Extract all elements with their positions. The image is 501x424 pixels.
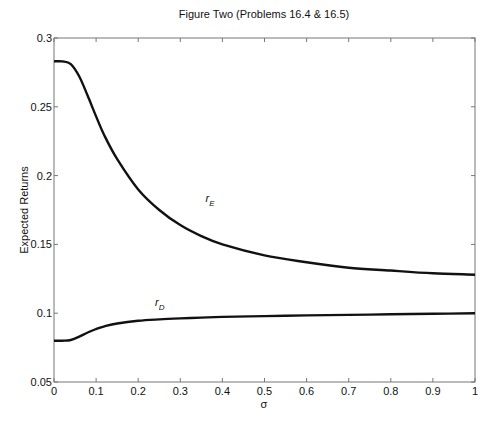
series-line-r-d <box>54 313 475 341</box>
x-tick-label: 0.7 <box>341 385 356 397</box>
curve-labels: rErD <box>155 192 215 313</box>
x-tick-label: 0.3 <box>173 385 188 397</box>
y-axis-ticks: 0.050.10.150.20.250.3 <box>31 32 475 388</box>
x-tick-label: 0.9 <box>425 385 440 397</box>
y-tick-label: 0.05 <box>31 376 52 388</box>
curve-label: rE <box>206 192 216 208</box>
x-tick-label: 0.2 <box>131 385 146 397</box>
x-tick-label: 0.5 <box>257 385 272 397</box>
x-tick-label: 0.8 <box>383 385 398 397</box>
x-tick-label: 0.6 <box>299 385 314 397</box>
plot-area <box>54 38 475 382</box>
y-tick-label: 0.25 <box>31 101 52 113</box>
series-lines <box>54 61 475 341</box>
y-axis-label: Expected Returns <box>18 166 30 254</box>
series-line-r-e <box>54 61 475 275</box>
y-tick-label: 0.15 <box>31 238 52 250</box>
y-tick-label: 0.3 <box>37 32 52 44</box>
y-tick-label: 0.2 <box>37 170 52 182</box>
curve-label: rD <box>155 296 165 312</box>
x-axis-ticks: 00.10.20.30.40.50.60.70.80.91 <box>51 38 478 397</box>
x-axis-label: σ <box>261 398 268 410</box>
x-tick-label: 0.4 <box>215 385 230 397</box>
chart-title: Figure Two (Problems 16.4 & 16.5) <box>179 8 349 20</box>
x-tick-label: 1 <box>472 385 478 397</box>
chart: Figure Two (Problems 16.4 & 16.5) 00.10.… <box>0 0 501 424</box>
x-tick-label: 0.1 <box>88 385 103 397</box>
y-tick-label: 0.1 <box>37 307 52 319</box>
